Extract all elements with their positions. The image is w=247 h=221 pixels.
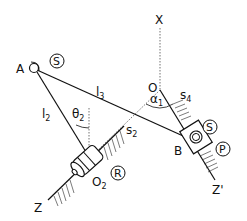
joint-badge-s-b-text: S [206,121,213,134]
label-theta2: θ2 [72,107,84,123]
joint-badge-p-text: P [219,143,226,156]
label-x: X [155,13,163,27]
joint-badge-r-text: R [114,167,122,180]
label-alpha1: α1 [150,92,163,108]
label-z-prime: Z' [212,183,224,197]
theta2-arc [76,125,89,128]
label-o2: O2 [92,175,107,191]
label-l2: l2 [42,107,50,123]
label-s2: s2 [126,123,137,139]
label-z: Z [34,201,42,215]
joint-badge-s-a-text: S [53,55,60,68]
mechanism-diagram: X O Z s2 l3 l2 θ2 O2 R A [0,0,247,221]
label-a: A [16,62,25,76]
label-b: B [174,144,182,158]
spherical-joint-a [30,64,39,73]
label-l3: l3 [96,85,104,101]
ground-hatch-s4-lower [200,151,218,172]
label-s4: s4 [180,88,191,104]
